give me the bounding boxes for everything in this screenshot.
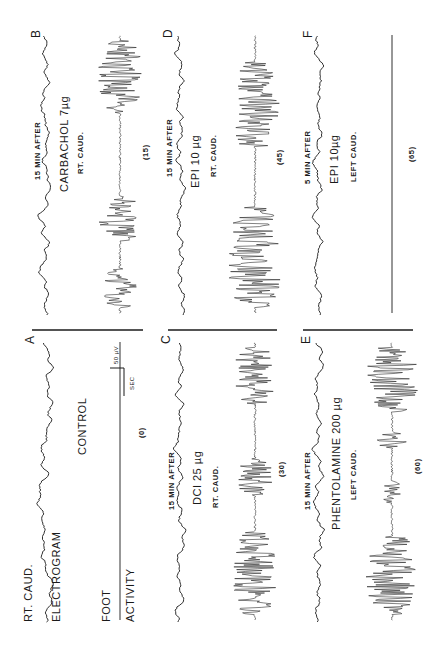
panel-e-site: LEFT CAUD. bbox=[349, 449, 358, 500]
panel-e-time-after: 15 MIN AFTER bbox=[303, 452, 312, 510]
panel-a-bottom-label-1: FOOT bbox=[100, 589, 112, 622]
panel-f-condition: EPI 10µg bbox=[328, 135, 340, 184]
panel-b-time-after: 15 MIN AFTER bbox=[33, 122, 42, 180]
panel-d-activity-trace bbox=[229, 36, 280, 313]
traces-layer bbox=[37, 35, 418, 622]
panel-c-letter: C bbox=[159, 335, 173, 344]
panel-b-site: RT. CAUD. bbox=[76, 132, 85, 174]
panel-a-bottom-label-2: ACTIVITY bbox=[124, 568, 136, 622]
panel-f-time-after: 5 MIN AFTER bbox=[303, 131, 312, 184]
electrogram-figure: RT. CAUD. ELECTROGRAM CONTROL FOOT ACTIV… bbox=[0, 0, 447, 660]
panel-c-activity-trace bbox=[234, 343, 276, 620]
panel-a: RT. CAUD. ELECTROGRAM CONTROL FOOT ACTIV… bbox=[22, 336, 146, 622]
panel-c-minutes: (30) bbox=[277, 461, 286, 477]
panel-d-condition: EPI 10 µg bbox=[189, 135, 201, 188]
panel-a-top-label-1: RT. CAUD. bbox=[22, 564, 34, 622]
figure-canvas: RT. CAUD. ELECTROGRAM CONTROL FOOT ACTIV… bbox=[0, 0, 447, 660]
panel-a-letter: A bbox=[23, 336, 37, 344]
panel-d-electrogram-trace bbox=[175, 36, 186, 315]
panel-d-minutes: (45) bbox=[275, 149, 284, 165]
panel-d-time-after: 15 MIN AFTER bbox=[165, 119, 174, 177]
panel-e-letter: E bbox=[299, 336, 313, 344]
panel-b-activity-trace bbox=[99, 36, 142, 313]
panel-c-time-after: 15 MIN AFTER bbox=[167, 452, 176, 510]
panel-e-electrogram-trace bbox=[312, 343, 325, 622]
scale-bar: 50 µV SEC bbox=[110, 346, 135, 396]
panel-a-condition: CONTROL bbox=[76, 398, 88, 455]
scale-amplitude-label: 50 µV bbox=[113, 346, 119, 364]
panel-f-letter: F bbox=[301, 31, 315, 38]
panel-f-minutes: (65) bbox=[407, 146, 416, 162]
panel-b-letter: B bbox=[29, 30, 43, 38]
panel-f-electrogram-trace bbox=[312, 36, 324, 315]
panel-d-letter: D bbox=[161, 29, 175, 38]
panel-a-top-label-2: ELECTROGRAM bbox=[50, 532, 62, 622]
panel-e-activity-trace bbox=[366, 343, 418, 620]
panel-c: 15 MIN AFTER DCI 25 µg RT. CAUD. (30) C bbox=[159, 335, 286, 510]
panel-f: 5 MIN AFTER EPI 10µg LEFT CAUD. (65) F bbox=[301, 31, 416, 184]
panel-a-minutes: (0) bbox=[137, 427, 146, 438]
panel-b-minutes: (15) bbox=[141, 144, 150, 160]
panel-f-site: LEFT CAUD. bbox=[349, 131, 358, 182]
panel-e-condition: PHENTOLAMINE 200 µg bbox=[330, 397, 342, 530]
panel-b-condition: CARBACHOL 7µg bbox=[58, 96, 70, 192]
scale-time-label: SEC bbox=[129, 376, 135, 390]
panel-b: 15 MIN AFTER CARBACHOL 7µg RT. CAUD. (15… bbox=[29, 30, 150, 192]
panel-c-condition: DCI 25 µg bbox=[191, 451, 203, 505]
panel-e-minutes: (60) bbox=[413, 458, 422, 474]
panel-c-site: RT. CAUD. bbox=[211, 466, 220, 508]
panel-d-site: RT. CAUD. bbox=[209, 135, 218, 177]
